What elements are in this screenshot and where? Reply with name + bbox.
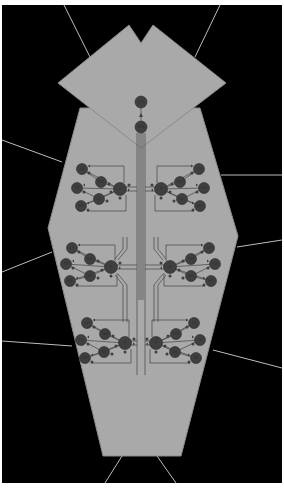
node-label: TXC [172,332,180,336]
outer-node-lower-left-1[interactable]: CP [76,335,87,346]
port-dot [178,269,181,272]
node-top-2[interactable]: ETX [135,121,147,133]
port-dot [128,184,131,187]
outer-node-middle-right-1[interactable]: CP [210,259,221,270]
node-label: RS [209,279,214,283]
port-dot [93,326,96,329]
hub-node-lower-right[interactable]: P [150,337,163,350]
outer-node-upper-right-0[interactable]: LP [194,164,205,175]
node-label: CP [198,338,204,342]
inner-node-middle-right-0[interactable]: TXC [186,254,197,265]
outer-node-middle-left-0[interactable]: LP [67,243,78,254]
hub-node-upper-left[interactable]: P [114,183,127,196]
outer-node-middle-left-2[interactable]: RS [65,276,76,287]
outer-node-upper-right-1[interactable]: CP [199,183,210,194]
port-dot [91,361,94,364]
port-dot [196,191,199,194]
outer-node-middle-right-2[interactable]: RS [206,276,217,287]
outer-node-upper-left-1[interactable]: CP [72,183,83,194]
port-dot [106,200,109,203]
port-dot [171,183,174,186]
node-label: CP [75,186,81,190]
hub-node-lower-left[interactable]: P [119,337,132,350]
inner-node-middle-right-1[interactable]: S/L [186,271,197,282]
node-label: TXC [86,257,94,261]
outer-node-upper-left-2[interactable]: RS [76,201,87,212]
inner-node-lower-right-0[interactable]: TXC [171,329,182,340]
port-dot [167,335,170,338]
outer-node-middle-right-0[interactable]: LP [204,243,215,254]
port-dot [188,361,191,364]
node-label: RS [198,204,203,208]
node-label: CP [213,262,219,266]
inner-node-lower-left-1[interactable]: S/L [99,347,110,358]
inner-node-upper-right-1[interactable]: S/L [177,194,188,205]
inner-node-lower-left-0[interactable]: TXC [100,329,111,340]
inner-node-middle-left-0[interactable]: TXC [85,254,96,265]
node-label: CP [202,186,208,190]
port-dot [119,262,122,265]
node-label: RS [83,356,88,360]
inner-node-upper-left-0[interactable]: TXC [96,177,107,188]
port-dot [72,267,75,270]
inner-node-upper-right-0[interactable]: TXC [175,177,186,188]
outer-node-lower-right-0[interactable]: LP [189,318,200,329]
port-dot [192,343,195,346]
port-dot [151,184,154,187]
node-label: ICU [138,100,145,104]
port-dot [169,275,172,278]
port-dot [203,284,206,287]
port-dot [78,251,81,254]
outer-node-lower-left-2[interactable]: RS [80,353,91,364]
node-label: S/L [172,350,178,354]
outer-node-middle-left-1[interactable]: CP [61,259,72,270]
node-label: S/L [179,197,185,201]
port-dot [76,284,79,287]
port-dot [164,345,167,348]
node-label: S/L [87,274,93,278]
port-dot [110,275,113,278]
port-dot [166,353,169,356]
port-dot [83,191,86,194]
node-label: TXC [101,332,109,336]
inner-node-middle-left-1[interactable]: S/L [85,271,96,282]
node-label: S/L [188,274,194,278]
port-dot [207,267,210,270]
inner-node-upper-left-1[interactable]: S/L [94,194,105,205]
port-dot [191,172,194,175]
outer-node-upper-right-2[interactable]: RS [195,201,206,212]
node-label: TXC [97,180,105,184]
node-label: S/L [101,350,107,354]
port-dot [101,269,104,272]
inner-node-lower-right-1[interactable]: S/L [170,347,181,358]
port-dot [97,260,100,263]
outer-node-lower-right-1[interactable]: CP [195,335,206,346]
port-dot [133,338,136,341]
port-dot [115,345,118,348]
port-dot [192,209,195,212]
hub-node-middle-left[interactable]: P [105,261,118,274]
port-dot [160,262,163,265]
port-dot [155,351,158,354]
node-top-1[interactable]: ICU [135,96,147,108]
circuit-diagram: ICUETXPTXCS/LLPCPRSPTXCS/LLPCPRSPTXCS/LL… [0,0,284,488]
port-dot [201,251,204,254]
port-dot [111,353,114,356]
node-label: TXC [176,180,184,184]
hub-node-middle-right[interactable]: P [164,261,177,274]
outer-node-lower-right-2[interactable]: RS [191,353,202,364]
outer-node-lower-left-0[interactable]: LP [82,318,93,329]
node-label: RS [68,279,73,283]
port-dot [119,197,122,200]
node-label: ETX [138,125,145,129]
port-dot [173,200,176,203]
outer-node-upper-left-0[interactable]: LP [77,164,88,175]
port-dot [112,335,115,338]
port-dot [87,209,90,212]
node-label: S/L [96,197,102,201]
node-label: RS [194,356,199,360]
hub-node-upper-right[interactable]: P [155,183,168,196]
port-dot [124,351,127,354]
node-label: TXC [187,257,195,261]
port-dot [87,343,90,346]
